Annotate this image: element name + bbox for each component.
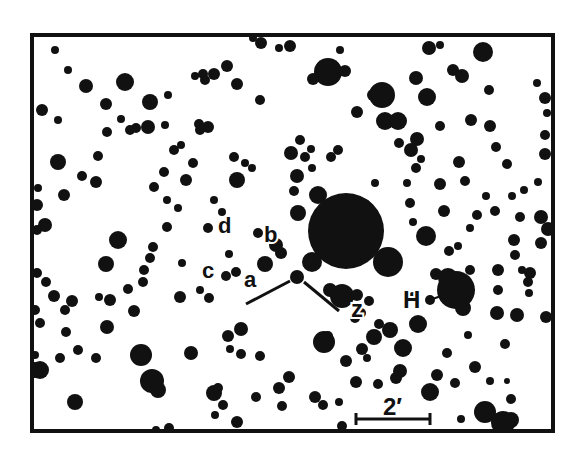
star bbox=[421, 383, 439, 401]
star bbox=[138, 277, 148, 287]
star bbox=[492, 264, 504, 276]
star bbox=[409, 315, 427, 333]
star bbox=[105, 295, 113, 303]
star bbox=[194, 119, 204, 129]
star bbox=[98, 256, 114, 272]
star bbox=[366, 329, 382, 345]
star bbox=[431, 369, 443, 381]
star bbox=[77, 171, 87, 181]
star bbox=[323, 283, 337, 297]
star bbox=[455, 69, 469, 83]
star bbox=[465, 265, 475, 275]
star bbox=[90, 176, 102, 188]
star bbox=[123, 284, 133, 294]
star bbox=[48, 290, 60, 302]
star bbox=[251, 392, 261, 402]
star bbox=[339, 65, 351, 77]
star bbox=[367, 89, 379, 101]
star bbox=[506, 394, 516, 404]
star bbox=[36, 104, 48, 116]
star bbox=[382, 251, 392, 261]
star bbox=[457, 415, 465, 423]
star bbox=[523, 277, 533, 287]
star bbox=[411, 163, 421, 173]
star bbox=[234, 322, 248, 336]
star bbox=[540, 311, 552, 323]
star bbox=[422, 41, 436, 55]
star bbox=[148, 242, 158, 252]
star bbox=[289, 186, 299, 196]
star bbox=[178, 259, 186, 267]
star bbox=[534, 178, 542, 186]
star bbox=[162, 222, 172, 232]
star bbox=[231, 267, 241, 277]
star bbox=[58, 189, 70, 201]
star bbox=[430, 268, 442, 280]
star bbox=[210, 196, 218, 204]
star bbox=[389, 112, 407, 130]
star bbox=[204, 293, 214, 303]
star bbox=[184, 346, 198, 360]
star bbox=[333, 145, 343, 155]
star bbox=[346, 198, 374, 226]
star bbox=[164, 91, 172, 99]
star bbox=[540, 130, 550, 140]
star bbox=[335, 398, 343, 406]
star bbox=[460, 176, 470, 186]
star bbox=[535, 237, 547, 249]
star bbox=[41, 277, 51, 287]
star bbox=[141, 120, 155, 134]
star bbox=[340, 355, 352, 367]
star bbox=[518, 266, 526, 274]
star bbox=[203, 223, 213, 233]
star bbox=[231, 78, 243, 90]
star bbox=[142, 94, 158, 110]
star bbox=[248, 164, 256, 172]
finder-chart: aabbccddzzHH 2′ bbox=[0, 0, 582, 463]
star-label-b: b bbox=[264, 222, 277, 247]
star bbox=[60, 305, 70, 315]
star bbox=[273, 382, 285, 394]
star bbox=[73, 345, 83, 355]
star bbox=[174, 204, 182, 212]
star bbox=[196, 286, 204, 294]
star bbox=[221, 60, 233, 72]
star bbox=[255, 95, 265, 105]
star bbox=[145, 253, 155, 263]
star bbox=[161, 121, 169, 129]
star bbox=[191, 72, 199, 80]
star bbox=[444, 246, 454, 256]
star bbox=[55, 353, 65, 363]
star bbox=[309, 391, 321, 403]
star bbox=[283, 371, 295, 383]
star bbox=[500, 339, 510, 349]
star bbox=[510, 250, 520, 260]
star bbox=[67, 394, 83, 410]
star bbox=[100, 320, 114, 334]
star bbox=[435, 121, 445, 131]
star bbox=[163, 196, 171, 204]
star bbox=[229, 152, 239, 162]
star bbox=[91, 353, 101, 363]
star bbox=[534, 210, 548, 224]
star bbox=[508, 234, 520, 246]
star-label-c: c bbox=[202, 258, 214, 283]
star bbox=[208, 68, 220, 80]
star bbox=[453, 156, 465, 168]
star bbox=[482, 192, 490, 200]
star bbox=[231, 416, 243, 428]
star bbox=[284, 146, 298, 160]
star bbox=[504, 378, 510, 384]
star bbox=[117, 115, 125, 123]
star-label-z: z bbox=[351, 295, 363, 322]
star bbox=[351, 106, 363, 118]
star bbox=[309, 186, 327, 204]
star bbox=[543, 109, 551, 117]
star bbox=[149, 182, 159, 192]
star bbox=[508, 192, 516, 200]
star bbox=[472, 210, 482, 220]
star bbox=[277, 401, 287, 411]
star bbox=[222, 330, 234, 342]
star bbox=[409, 218, 417, 226]
star bbox=[200, 75, 210, 85]
